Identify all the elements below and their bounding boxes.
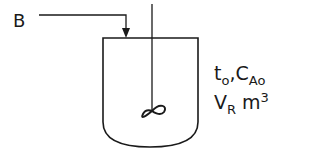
concentration-subscript-2: o: [257, 73, 265, 88]
volume-label: VR m3: [214, 93, 269, 112]
initial-conditions-label: to,CAo: [214, 64, 265, 83]
volume-subscript: R: [227, 102, 236, 117]
reactor-vessel: [103, 38, 198, 147]
concentration-symbol: C: [235, 62, 248, 84]
volume-unit: m: [242, 91, 261, 113]
volume-symbol: V: [214, 91, 227, 113]
volume-unit-exponent: 3: [261, 90, 269, 105]
feed-line: [39, 15, 126, 30]
feed-label: B: [13, 12, 25, 30]
feed-arrow-icon: [122, 28, 130, 38]
time-subscript: o: [221, 73, 229, 88]
reactor-diagram: [0, 0, 313, 161]
impeller-icon: [142, 106, 165, 117]
